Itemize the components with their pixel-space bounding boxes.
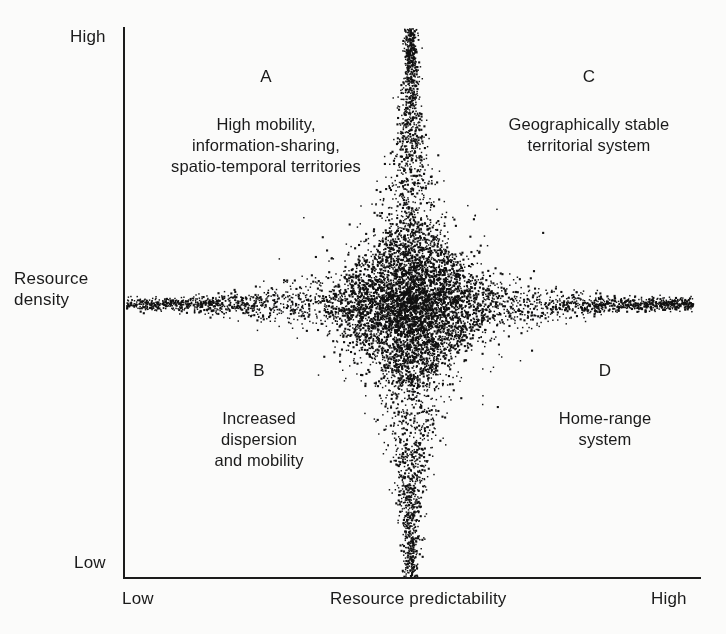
quadrant-annotation-c: C Geographically stable territorial syst…: [474, 44, 704, 156]
y-axis-low-tick-label: Low: [74, 552, 106, 573]
y-axis-line: [123, 27, 125, 579]
y-axis-title-line-2: density: [14, 289, 88, 310]
quadrant-annotation-b: B Increased dispersion and mobility: [168, 338, 350, 471]
quadrant-letter-d: D: [506, 359, 704, 383]
quadrant-text-a: High mobility, information-sharing, spat…: [171, 115, 361, 175]
quadrant-text-b: Increased dispersion and mobility: [214, 409, 303, 469]
quadrant-letter-c: C: [474, 65, 704, 89]
quadrant-annotation-d: D Home-range system: [506, 338, 704, 450]
x-axis-low-tick-label: Low: [122, 588, 154, 609]
x-axis-high-tick-label: High: [651, 588, 687, 609]
x-axis-title: Resource predictability: [330, 588, 507, 609]
quadrant-letter-a: A: [152, 65, 380, 89]
quadrant-annotation-a: A High mobility, information-sharing, sp…: [152, 44, 380, 177]
y-axis-title: Resource density: [14, 268, 88, 310]
x-axis-line: [123, 577, 701, 579]
y-axis-high-tick-label: High: [70, 26, 106, 47]
quadrant-text-d: Home-range system: [559, 409, 652, 448]
quadrant-text-c: Geographically stable territorial system: [509, 115, 670, 154]
y-axis-title-line-1: Resource: [14, 268, 88, 289]
quadrant-letter-b: B: [168, 359, 350, 383]
resource-density-predictability-figure: High Low Resource density Low Resource p…: [0, 0, 726, 634]
